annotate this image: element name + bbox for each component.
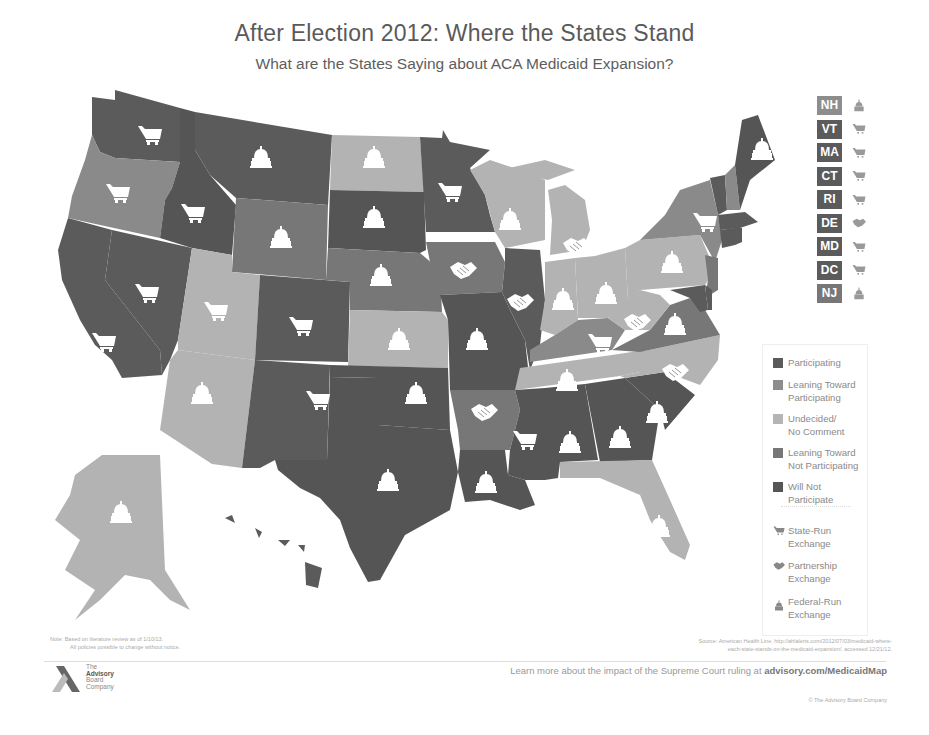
- source-line: Source: American Health Line, http://ahl…: [698, 637, 892, 645]
- map-legend: Participating Leaning TowardParticipatin…: [762, 344, 868, 636]
- cart-icon: [773, 525, 785, 537]
- copyright: © The Advisory Board Company: [808, 697, 887, 703]
- small-state-row[interactable]: NH: [817, 94, 866, 118]
- small-states-list: NH VT MA CT RI DE MD DC NJ: [817, 94, 866, 306]
- legend-label: Exchange: [788, 609, 831, 620]
- legend-label: No Comment: [788, 426, 845, 437]
- legend-item-state-run: State-RunExchange: [773, 525, 831, 550]
- legend-label: Undecided/: [788, 413, 837, 424]
- cart-icon: [852, 122, 866, 136]
- legend-label: Will Not: [788, 481, 821, 492]
- legend-item-federal-run: Federal-RunExchange: [773, 596, 841, 621]
- legend-swatch: [773, 448, 783, 458]
- cart-icon: [852, 240, 866, 254]
- legend-item-will-not: Will NotParticipate: [773, 481, 833, 506]
- legend-label: Participating: [788, 357, 841, 368]
- source-citation: Source: American Health Line, http://ahl…: [698, 637, 892, 653]
- state-code-badge: DE: [817, 214, 842, 233]
- legend-label: Leaning Toward: [788, 447, 856, 458]
- learn-more-text: Learn more about the impact of the Supre…: [510, 665, 887, 676]
- learn-more-prefix: Learn more about the impact of the Supre…: [510, 665, 764, 676]
- cart-icon: [852, 193, 866, 207]
- legend-swatch: [773, 358, 783, 368]
- state-NM[interactable]: [242, 360, 330, 468]
- state-MA[interactable]: [718, 212, 758, 230]
- small-state-row[interactable]: RI: [817, 188, 866, 212]
- legend-label: Participate: [788, 494, 833, 505]
- cart-icon: [852, 169, 866, 183]
- legend-label: Federal-Run: [788, 596, 841, 607]
- legend-divider: [781, 506, 851, 507]
- legend-label: Not Participating: [788, 460, 858, 471]
- footnote: Note: Based on literature review as of 1…: [50, 635, 180, 651]
- footer-divider: [44, 661, 886, 662]
- legend-label: Exchange: [788, 538, 831, 549]
- legend-label: Participating: [788, 392, 841, 403]
- cart-icon: [852, 146, 866, 160]
- small-state-row[interactable]: VT: [817, 118, 866, 142]
- state-HI[interactable]: [225, 515, 322, 588]
- note-line: Note: Based on literature review as of 1…: [50, 635, 180, 643]
- small-state-row[interactable]: CT: [817, 165, 866, 189]
- small-state-row[interactable]: MD: [817, 235, 866, 259]
- capitol-icon: [773, 600, 785, 612]
- state-WA[interactable]: [92, 90, 180, 162]
- logo-mark-icon: [50, 664, 84, 694]
- state-code-badge: NJ: [817, 284, 842, 303]
- state-AZ[interactable]: [160, 350, 255, 468]
- state-FL[interactable]: [560, 460, 690, 560]
- legend-swatch: [773, 482, 783, 492]
- capitol-icon: [852, 99, 866, 113]
- advisory-board-logo: The Advisory Board Company: [50, 664, 160, 696]
- legend-label: Exchange: [788, 573, 831, 584]
- state-code-badge: MD: [817, 237, 842, 256]
- state-code-badge: RI: [817, 190, 842, 209]
- state-AR[interactable]: [450, 390, 520, 450]
- legend-swatch: [773, 380, 783, 390]
- cart-icon: [273, 571, 297, 590]
- cart-icon: [852, 263, 866, 277]
- state-code-badge: VT: [817, 120, 842, 139]
- small-state-row[interactable]: NJ: [817, 282, 866, 306]
- legend-item-leaning-participating: Leaning TowardParticipating: [773, 379, 856, 404]
- state-code-badge: NH: [817, 96, 842, 115]
- state-code-badge: MA: [817, 143, 842, 162]
- state-RI[interactable]: [735, 228, 742, 245]
- state-code-badge: DC: [817, 261, 842, 280]
- legend-swatch: [773, 414, 783, 424]
- legend-item-partnership: PartnershipExchange: [773, 560, 837, 585]
- small-state-row[interactable]: DE: [817, 212, 866, 236]
- legend-label: Leaning Toward: [788, 379, 856, 390]
- note-line: All policies possible to change without …: [50, 643, 180, 651]
- legend-label: Partnership: [788, 560, 837, 571]
- small-state-row[interactable]: DC: [817, 259, 866, 283]
- small-state-row[interactable]: MA: [817, 141, 866, 165]
- medicaid-map-link[interactable]: advisory.com/MedicaidMap: [764, 665, 887, 676]
- handshake-icon: [563, 238, 590, 255]
- source-line: each-state-stands-on-the-medicaid-expans…: [698, 645, 892, 653]
- handshake-icon: [773, 560, 785, 572]
- handshake-icon: [852, 216, 866, 230]
- logo-text: Company: [86, 684, 114, 691]
- legend-label: State-Run: [788, 525, 831, 536]
- legend-item-undecided: Undecided/No Comment: [773, 413, 845, 438]
- state-ME[interactable]: [735, 115, 775, 210]
- state-CO[interactable]: [255, 275, 350, 362]
- state-code-badge: CT: [817, 167, 842, 186]
- state-AK[interactable]: [55, 455, 190, 620]
- state-CT[interactable]: [720, 228, 735, 248]
- legend-item-participating: Participating: [773, 357, 841, 370]
- capitol-icon: [852, 287, 866, 301]
- legend-item-leaning-not: Leaning TowardNot Participating: [773, 447, 858, 472]
